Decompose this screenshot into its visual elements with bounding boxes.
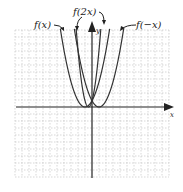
x-axis-arrow-icon	[164, 103, 174, 111]
graph-figure: x y f(x) f(2x) f(−x)	[0, 0, 183, 192]
x-axis-label: x	[170, 111, 174, 119]
axes: x y	[16, 21, 174, 178]
curve-f-x-	[60, 29, 109, 107]
label-fnegx: f(−x)	[135, 19, 162, 30]
arrowhead-f2x-right-icon	[102, 20, 106, 25]
curve-f-2x-	[76, 29, 101, 107]
label-f2x: f(2x)	[72, 6, 97, 17]
label-fx: f(x)	[33, 19, 51, 30]
y-axis-arrow-icon	[88, 21, 96, 32]
curve-f-x-	[74, 29, 123, 107]
